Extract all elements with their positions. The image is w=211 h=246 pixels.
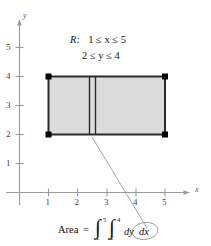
region-condition-y: 2 ≤ y ≤ 4 (82, 51, 120, 62)
y-tick-label-1: 1 (6, 159, 11, 168)
differential-dx: dx (139, 227, 149, 238)
x-tick-label-3: 3 (104, 198, 109, 207)
y-tick-label-4: 4 (6, 72, 11, 81)
y-axis-arrowhead (17, 19, 22, 26)
y-axis-label: y (23, 12, 27, 20)
x-axis-label: x (195, 186, 199, 194)
y-tick-label-5: 5 (6, 43, 11, 52)
x-axis-arrowhead (184, 190, 191, 195)
x-tick-label-1: 1 (46, 198, 51, 207)
region-condition-x-line: R: 1 ≤ x ≤ 5 (70, 35, 126, 46)
corner-marker-bottom-left (46, 132, 52, 138)
corner-marker-bottom-right (162, 132, 168, 138)
inner-integral-lower-limit: 2 (110, 234, 113, 241)
region-condition-x: 1 ≤ x ≤ 5 (88, 34, 126, 45)
outer-integral-upper-limit: 5 (103, 216, 106, 223)
differential-dy: dy (124, 227, 134, 238)
x-tick-label-5: 5 (162, 198, 167, 207)
x-tick-label-4: 4 (133, 198, 138, 207)
formula-area-word: Area (58, 225, 78, 236)
outer-integral-lower-limit: 1 (96, 234, 99, 241)
figure-container: y x 1 2 3 4 5 1 2 3 4 5 R: 1 ≤ x ≤ 5 2 ≤… (0, 0, 211, 246)
corner-marker-top-right (162, 74, 168, 80)
corner-marker-top-left (46, 74, 52, 80)
x-tick-label-2: 2 (75, 198, 80, 207)
inner-integral-upper-limit: 4 (117, 216, 120, 223)
region-label-R: R: (70, 34, 80, 45)
y-tick-label-3: 3 (6, 101, 11, 110)
y-tick-label-2: 2 (6, 130, 11, 139)
formula-equals: = (83, 225, 89, 236)
region-rectangle (49, 77, 166, 135)
